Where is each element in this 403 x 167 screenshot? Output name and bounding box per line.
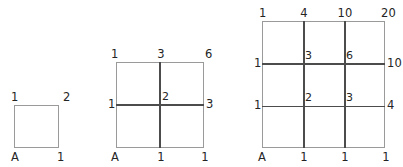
diagram-2-top-label-1: 3 <box>157 49 165 61</box>
diagram-3-frame <box>262 21 385 148</box>
diagram-3-origin-label: A <box>258 152 266 164</box>
figure-canvas: 1 2 A 1 1 3 6 1 3 2 A 1 1 1 4 10 20 1 1 … <box>0 0 403 167</box>
diagram-1-origin-label: A <box>11 152 19 164</box>
diagram-2 <box>116 62 204 148</box>
diagram-2-bottom-label-2: 1 <box>201 152 209 164</box>
diagram-3-vline-2 <box>344 21 346 148</box>
diagram-2-interior-label-0: 2 <box>162 91 169 102</box>
diagram-3-right-label-0: 10 <box>387 58 402 70</box>
diagram-3-top-label-0: 1 <box>259 8 267 20</box>
diagram-1-top-label-0: 1 <box>11 92 19 104</box>
diagram-3-top-label-1: 4 <box>300 8 308 20</box>
diagram-3-left-label-0: 1 <box>254 58 262 70</box>
diagram-3-vline-1 <box>303 21 305 148</box>
diagram-2-right-label-0: 3 <box>206 99 214 111</box>
diagram-3-left-label-1: 1 <box>254 100 262 112</box>
diagram-3-hline-1 <box>262 63 385 65</box>
diagram-2-origin-label: A <box>111 152 119 164</box>
diagram-3-interior-label-3: 3 <box>346 92 353 103</box>
diagram-1-bottom-label-1: 1 <box>57 152 65 164</box>
diagram-3-bottom-label-1: 1 <box>300 152 308 164</box>
diagram-3-interior-label-0: 3 <box>305 50 312 61</box>
diagram-2-left-label-0: 1 <box>108 99 116 111</box>
diagram-2-bottom-label-1: 1 <box>157 152 165 164</box>
diagram-3-bottom-label-3: 1 <box>382 152 390 164</box>
diagram-3-hline-2 <box>262 106 385 108</box>
diagram-3 <box>262 21 385 148</box>
diagram-2-top-label-0: 1 <box>111 49 119 61</box>
diagram-3-top-label-3: 20 <box>381 8 396 20</box>
diagram-3-interior-label-1: 6 <box>346 50 353 61</box>
diagram-1-top-label-1: 2 <box>63 92 71 104</box>
diagram-2-top-label-2: 6 <box>205 49 213 61</box>
diagram-3-bottom-label-2: 1 <box>341 152 349 164</box>
diagram-2-hline-1 <box>116 104 204 106</box>
diagram-1-frame <box>14 105 59 148</box>
diagram-3-right-label-1: 4 <box>387 100 395 112</box>
diagram-3-top-label-2: 10 <box>337 8 352 20</box>
diagram-1 <box>14 105 59 148</box>
diagram-3-interior-label-2: 2 <box>305 92 312 103</box>
